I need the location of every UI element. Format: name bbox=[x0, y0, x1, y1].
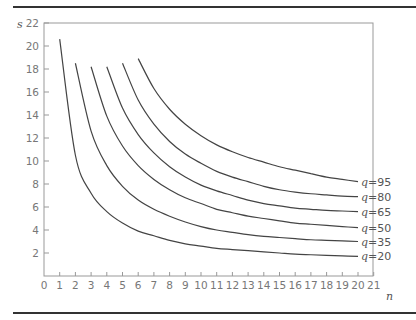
x-tick-label: 20 bbox=[351, 279, 364, 291]
series-curves bbox=[60, 39, 358, 256]
series-label: q=65 bbox=[361, 206, 391, 219]
x-tick-label: 13 bbox=[241, 279, 254, 291]
x-tick-label: 14 bbox=[257, 279, 271, 291]
x-tick-label: 17 bbox=[304, 279, 317, 291]
x-tick-label: 3 bbox=[88, 279, 95, 291]
x-tick-label: 5 bbox=[119, 279, 126, 291]
x-tick-label: 4 bbox=[103, 279, 110, 291]
x-tick-label: 2 bbox=[72, 279, 79, 291]
y-tick-label: 12 bbox=[26, 132, 39, 144]
y-tick-label: 2 bbox=[32, 247, 39, 259]
y-tick-label: 14 bbox=[26, 109, 40, 121]
x-tick-label: 18 bbox=[320, 279, 333, 291]
y-tick-label: 22 bbox=[26, 17, 39, 29]
x-tick-label: 11 bbox=[210, 279, 223, 291]
x-tick-label: 8 bbox=[166, 279, 173, 291]
series-curve bbox=[107, 67, 358, 212]
x-tick-label: 21 bbox=[367, 279, 380, 291]
series-label: q=35 bbox=[361, 236, 391, 249]
y-tick-label: 10 bbox=[26, 155, 39, 167]
series-label: q=50 bbox=[361, 222, 391, 235]
x-tick-label: 16 bbox=[289, 279, 303, 291]
series-curve bbox=[91, 67, 358, 228]
x-tick-label: 15 bbox=[273, 279, 286, 291]
y-tick-label: 18 bbox=[26, 63, 39, 75]
y-tick-label: 16 bbox=[26, 86, 40, 98]
series-label: q=95 bbox=[361, 176, 391, 189]
x-tick-label: 0 bbox=[41, 279, 48, 291]
x-tick-label: 19 bbox=[336, 279, 349, 291]
y-tick-label: 20 bbox=[26, 40, 39, 52]
x-tick-label: 7 bbox=[151, 279, 158, 291]
y-axis: 246810121416182022 bbox=[26, 17, 49, 259]
series-labels: q=20q=35q=50q=65q=80q=95 bbox=[361, 176, 391, 264]
series-curve bbox=[75, 63, 358, 241]
plot-border bbox=[44, 23, 373, 276]
x-tick-label: 10 bbox=[194, 279, 207, 291]
x-tick-label: 12 bbox=[226, 279, 239, 291]
line-chart: 0123456789101112131415161718192021 24681… bbox=[0, 0, 416, 320]
series-label: q=20 bbox=[361, 250, 391, 263]
x-tick-label: 9 bbox=[182, 279, 189, 291]
y-tick-label: 8 bbox=[32, 178, 39, 190]
x-tick-label: 1 bbox=[56, 279, 63, 291]
y-tick-label: 6 bbox=[32, 201, 39, 213]
series-label: q=80 bbox=[361, 191, 391, 204]
x-axis-label: n bbox=[386, 290, 393, 303]
y-tick-label: 4 bbox=[32, 224, 39, 236]
y-axis-label: s bbox=[17, 18, 23, 31]
plot-frame bbox=[44, 23, 373, 276]
series-curve bbox=[138, 59, 358, 182]
x-tick-label: 6 bbox=[135, 279, 142, 291]
x-axis: 0123456789101112131415161718192021 bbox=[41, 272, 381, 291]
